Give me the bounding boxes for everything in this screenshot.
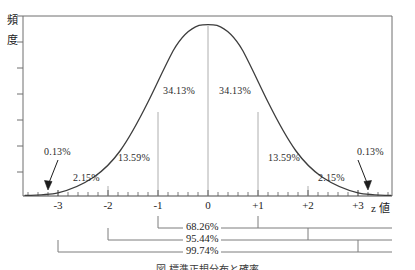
region-label-left-outer: 0.13% [44, 146, 71, 157]
region-label-right-2sigma: 2.15% [318, 172, 345, 183]
x-tick-label-plus-2: +2 [293, 199, 323, 211]
figure-caption: 図 標準正規分布と確率 [0, 261, 415, 270]
bracket-label-99: 99.74% [183, 245, 221, 256]
region-label-left-2sigma: 2.15% [73, 172, 100, 183]
x-axis-label: z 値 [371, 199, 390, 215]
x-tick-label-plus-3: +3 [343, 199, 373, 211]
bracket-label-68: 68.26% [183, 221, 221, 232]
arrowhead-right-icon [364, 181, 372, 191]
bracket-label-95: 95.44% [183, 233, 221, 244]
region-label-left-center: 34.13% [163, 85, 195, 96]
x-tick-label-minus-2: -2 [93, 199, 123, 211]
x-tick-label-plus-1: +1 [243, 199, 273, 211]
y-axis-ticks [17, 16, 23, 172]
annotation-leader-left [49, 160, 59, 184]
annotation-leader-right [358, 160, 368, 184]
region-label-right-outer: 0.13% [357, 146, 384, 157]
x-tick-label-zero: 0 [193, 199, 223, 211]
bracket-99 [58, 240, 392, 252]
region-label-right-1sigma: 13.59% [268, 152, 300, 163]
region-label-left-1sigma: 13.59% [118, 152, 150, 163]
bracket-95 [108, 228, 392, 240]
figure-normal-distribution: 頻 度 [0, 0, 415, 270]
x-tick-label-minus-1: -1 [143, 199, 173, 211]
region-label-right-center: 34.13% [219, 85, 251, 96]
x-tick-label-minus-3: -3 [43, 199, 73, 211]
arrowhead-left-icon [45, 181, 53, 191]
sigma-divider-lines [108, 26, 308, 196]
